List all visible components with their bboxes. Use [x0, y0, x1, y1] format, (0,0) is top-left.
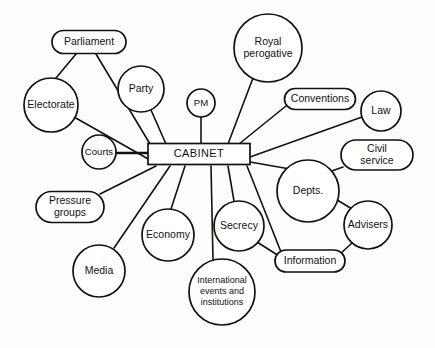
edge-party-to-cabinet	[151, 110, 166, 144]
edge-secrecy-to-information	[257, 242, 279, 256]
party-label: Party	[129, 82, 154, 94]
node-advisers[interactable]: Advisers	[344, 201, 392, 249]
royal-perogative-label: Royal	[255, 35, 282, 47]
royal-perogative-label: perogative	[243, 47, 292, 59]
edge-parliament-to-electorate	[56, 54, 76, 78]
secrecy-label: Secrecy	[220, 219, 259, 231]
international-events-label: institutions	[201, 297, 244, 307]
edge-royal-perogative-to-cabinet	[228, 78, 253, 144]
international-events-label: International	[197, 275, 247, 285]
edge-pressure-groups-to-cabinet	[100, 166, 156, 194]
node-secrecy[interactable]: Secrecy	[214, 201, 264, 251]
node-depts[interactable]: Depts.	[277, 160, 339, 222]
node-economy[interactable]: Economy	[142, 209, 194, 261]
cabinet-spider-diagram: CABINETParliamentElectoratePartyPMRoyalp…	[0, 0, 435, 348]
information-label: Information	[284, 254, 337, 266]
node-pm[interactable]: PM	[187, 89, 215, 117]
node-conventions[interactable]: Conventions	[285, 89, 356, 110]
edge-economy-to-cabinet	[171, 166, 185, 209]
node-courts[interactable]: Courts	[82, 135, 116, 169]
economy-label: Economy	[146, 228, 191, 240]
media-label: Media	[85, 264, 114, 276]
pressure-groups-label: Pressure	[49, 194, 91, 206]
pressure-groups-label: groups	[54, 206, 86, 218]
advisers-label: Advisers	[348, 218, 388, 230]
civil-service-label: Civil	[367, 142, 387, 154]
node-party[interactable]: Party	[118, 66, 164, 112]
edge-depts-to-cabinet	[250, 162, 290, 169]
node-information[interactable]: Information	[275, 250, 345, 272]
edge-secrecy-to-cabinet	[228, 166, 234, 201]
node-layer: CABINETParliamentElectoratePartyPMRoyalp…	[24, 14, 413, 325]
international-events-label: events and	[200, 286, 244, 296]
law-label: Law	[371, 104, 391, 116]
node-parliament[interactable]: Parliament	[52, 31, 126, 54]
node-pressure-groups[interactable]: Pressuregroups	[36, 192, 104, 223]
node-international-events[interactable]: Internationalevents andinstitutions	[189, 259, 255, 325]
cabinet-label: CABINET	[174, 147, 224, 159]
diagram-canvas: CABINETParliamentElectoratePartyPMRoyalp…	[0, 0, 435, 348]
electorate-label: Electorate	[27, 98, 74, 110]
edge-conventions-to-cabinet	[239, 106, 286, 144]
parliament-label: Parliament	[64, 35, 114, 47]
edge-international-events-to-cabinet	[211, 166, 213, 260]
node-civil-service[interactable]: Civilservice	[341, 140, 413, 170]
node-royal-perogative[interactable]: Royalperogative	[234, 14, 302, 82]
civil-service-label: service	[360, 154, 393, 166]
node-law[interactable]: Law	[361, 91, 401, 131]
node-media[interactable]: Media	[73, 245, 125, 297]
node-cabinet[interactable]: CABINET	[148, 144, 250, 165]
node-electorate[interactable]: Electorate	[24, 78, 78, 132]
pm-label: PM	[194, 97, 208, 108]
depts-label: Depts.	[293, 184, 323, 196]
courts-label: Courts	[85, 146, 113, 157]
conventions-label: Conventions	[291, 92, 349, 104]
